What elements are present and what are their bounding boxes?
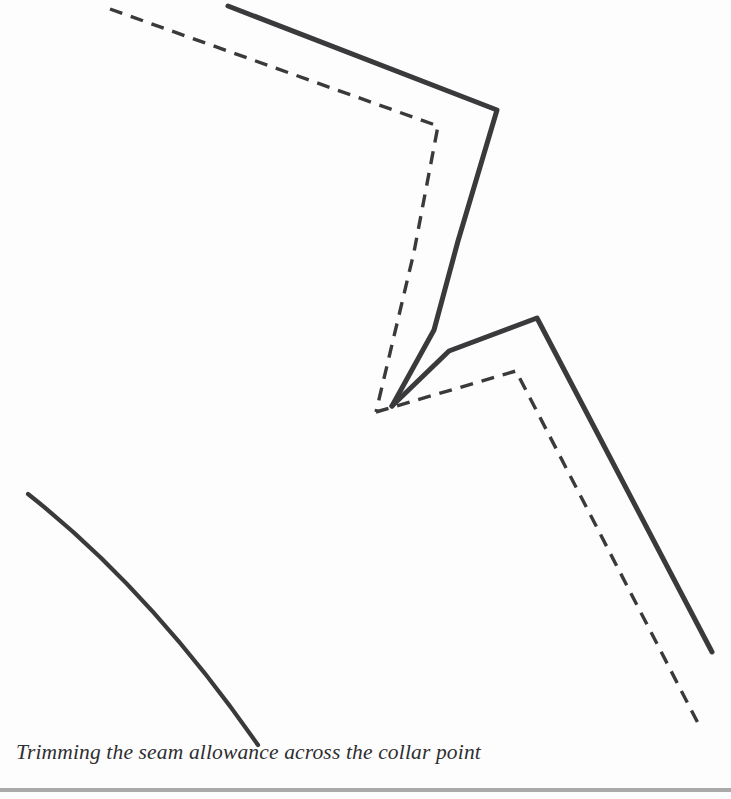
illustration-page: Trimming the seam allowance across the c… bbox=[0, 0, 731, 799]
collar-point-diagram bbox=[0, 0, 731, 799]
bottom-divider-rule bbox=[0, 788, 731, 792]
figure-caption: Trimming the seam allowance across the c… bbox=[16, 739, 716, 765]
diagram-background bbox=[0, 0, 731, 799]
